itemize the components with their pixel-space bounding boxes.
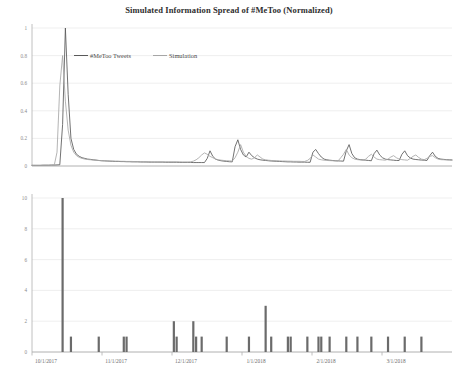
x-tick-label: 3/1/2018 bbox=[386, 358, 405, 364]
chart-page: Simulated Information Spread of #MeToo (… bbox=[0, 0, 458, 378]
top-line-chart-panel: 00.20.40.60.81 #MeToo Tweets Simulation bbox=[0, 18, 458, 170]
tweets-line-swatch-icon bbox=[74, 55, 88, 56]
x-tick-label: 10/1/2017 bbox=[35, 358, 57, 364]
bottom-chart-plot bbox=[0, 188, 458, 358]
page-title: Simulated Information Spread of #MeToo (… bbox=[0, 5, 458, 15]
legend-item-tweets: #MeToo Tweets bbox=[74, 52, 131, 59]
x-tick-label: 11/1/2017 bbox=[105, 358, 127, 364]
bottom-chart-x-axis-labels: 10/1/201711/1/201712/1/20171/1/20182/1/2… bbox=[0, 358, 458, 370]
top-chart-legend: #MeToo Tweets Simulation bbox=[74, 52, 219, 59]
x-tick-label: 1/1/2018 bbox=[246, 358, 265, 364]
simulation-line-swatch-icon bbox=[153, 55, 167, 56]
legend-label-tweets: #MeToo Tweets bbox=[90, 52, 131, 59]
top-chart-plot bbox=[0, 18, 458, 170]
legend-label-simulation: Simulation bbox=[169, 52, 197, 59]
x-tick-label: 12/1/2017 bbox=[175, 358, 197, 364]
bottom-bar-chart-panel: 0246810 Number of Related External Event… bbox=[0, 188, 458, 358]
legend-item-simulation: Simulation bbox=[153, 52, 197, 59]
x-tick-label: 2/1/2018 bbox=[316, 358, 335, 364]
